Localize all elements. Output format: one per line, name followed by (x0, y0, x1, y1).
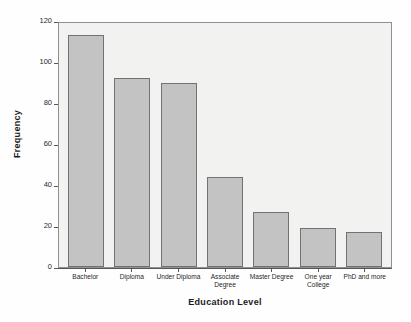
y-axis-tick-label: 40 (44, 180, 52, 189)
y-axis-tick-label: 20 (44, 221, 52, 230)
plot-area (58, 22, 392, 268)
bar-slot (202, 23, 248, 267)
y-axis-tick-label: 80 (44, 98, 52, 107)
x-axis-tick-mark (131, 268, 132, 272)
bar[interactable] (300, 228, 336, 267)
x-axis-tick-labels: BachelorDiplomaUnder DiplomaAssociate De… (58, 273, 392, 289)
x-axis-tick-mark (364, 268, 365, 272)
x-axis-tick-label: One year College (295, 273, 342, 289)
bar-slot (156, 23, 202, 267)
x-axis-title: Education Level (58, 297, 392, 307)
x-axis-tick-label: Master Degree (248, 273, 295, 289)
x-axis-tick-mark (225, 268, 226, 272)
bar-slot (63, 23, 109, 267)
bar-slot (109, 23, 155, 267)
bar-slot (248, 23, 294, 267)
x-axis-tick-mark (271, 268, 272, 272)
bar[interactable] (68, 35, 104, 267)
y-axis-tick-label: 0 (48, 262, 52, 271)
bar[interactable] (346, 232, 382, 267)
x-axis-tick-mark (318, 268, 319, 272)
bar-slot (341, 23, 387, 267)
y-axis-tick-label: 60 (44, 139, 52, 148)
x-axis-tick-label: Diploma (109, 273, 156, 289)
bar[interactable] (161, 83, 197, 268)
x-axis-tick-label: PhD and more (341, 273, 388, 289)
bar[interactable] (253, 212, 289, 267)
plot-inner (59, 23, 391, 267)
bar-slot (294, 23, 340, 267)
x-axis-tick-label: Associate Degree (202, 273, 249, 289)
y-axis-title: Frequency (6, 0, 28, 268)
x-axis-tick-mark (178, 268, 179, 272)
bar[interactable] (114, 78, 150, 267)
bar-series (59, 23, 391, 267)
x-axis-tick-label: Bachelor (62, 273, 109, 289)
x-axis-tick-label: Under Diploma (155, 273, 202, 289)
bar-chart: Frequency 020406080100120 BachelorDiplom… (0, 0, 411, 322)
y-axis-ticks: 020406080100120 (28, 22, 58, 268)
x-axis-tick-mark (85, 268, 86, 272)
y-axis-tick-label: 120 (39, 16, 52, 25)
bar[interactable] (207, 177, 243, 267)
y-axis-tick-label: 100 (39, 57, 52, 66)
y-axis-title-label: Frequency (12, 110, 22, 158)
